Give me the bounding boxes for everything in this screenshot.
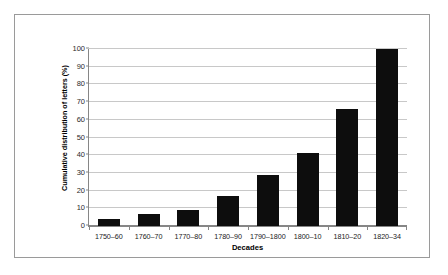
x-tick-mark xyxy=(288,226,289,230)
y-tick-label: 30 xyxy=(77,167,85,176)
x-tick-label: 1750–60 xyxy=(95,232,123,241)
figure: Cumulative distribution of letters (%) 0… xyxy=(0,0,448,275)
plot-area: 0102030405060708090100 1750–601760–70177… xyxy=(88,49,407,227)
bar-category: 1780–90 xyxy=(208,49,248,226)
x-tick-mark xyxy=(248,226,249,230)
bar-series: 1750–601760–701770–801780–901790–1800180… xyxy=(89,49,407,226)
x-tick-mark xyxy=(89,226,90,230)
bar-category: 1790–1800 xyxy=(248,49,288,226)
bar-category: 1750–60 xyxy=(89,49,129,226)
y-tick-label: 40 xyxy=(77,150,85,159)
x-tick-mark xyxy=(129,226,130,230)
bar xyxy=(336,109,358,226)
x-tick-label: 1800–10 xyxy=(294,232,322,241)
x-tick-label: 1760–70 xyxy=(135,232,163,241)
x-tick-label: 1790–1800 xyxy=(250,232,286,241)
x-tick-label: 1820–34 xyxy=(373,232,401,241)
x-tick-label: 1810–20 xyxy=(333,232,361,241)
bar-category: 1800–10 xyxy=(288,49,328,226)
bar xyxy=(98,219,120,226)
x-tick-mark xyxy=(367,226,368,230)
bar xyxy=(217,196,239,226)
bar-category: 1810–20 xyxy=(328,49,368,226)
y-tick-label: 50 xyxy=(77,132,85,141)
bar-category: 1820–34 xyxy=(367,49,407,226)
x-tick-mark xyxy=(169,226,170,230)
y-tick-label: 100 xyxy=(72,44,85,53)
x-tick-mark xyxy=(208,226,209,230)
y-tick-label: 70 xyxy=(77,97,85,106)
y-tick-label: 90 xyxy=(77,61,85,70)
y-tick-label: 0 xyxy=(81,221,85,230)
x-tick-label: 1780–90 xyxy=(214,232,242,241)
bar xyxy=(297,153,319,226)
x-tick-label: 1770–80 xyxy=(174,232,202,241)
bar xyxy=(257,175,279,226)
y-axis-title: Cumulative distribution of letters (%) xyxy=(59,38,71,218)
x-tick-mark xyxy=(406,226,407,230)
chart-frame: Cumulative distribution of letters (%) 0… xyxy=(14,14,430,258)
bar-category: 1760–70 xyxy=(129,49,169,226)
y-tick-label: 80 xyxy=(77,79,85,88)
bar xyxy=(138,214,160,226)
bar xyxy=(177,210,199,226)
x-tick-mark xyxy=(328,226,329,230)
bar xyxy=(376,49,398,226)
bar-category: 1770–80 xyxy=(169,49,209,226)
y-tick-label: 60 xyxy=(77,114,85,123)
x-axis-title: Decades xyxy=(88,243,407,252)
y-tick-label: 20 xyxy=(77,185,85,194)
y-tick-label: 10 xyxy=(77,203,85,212)
